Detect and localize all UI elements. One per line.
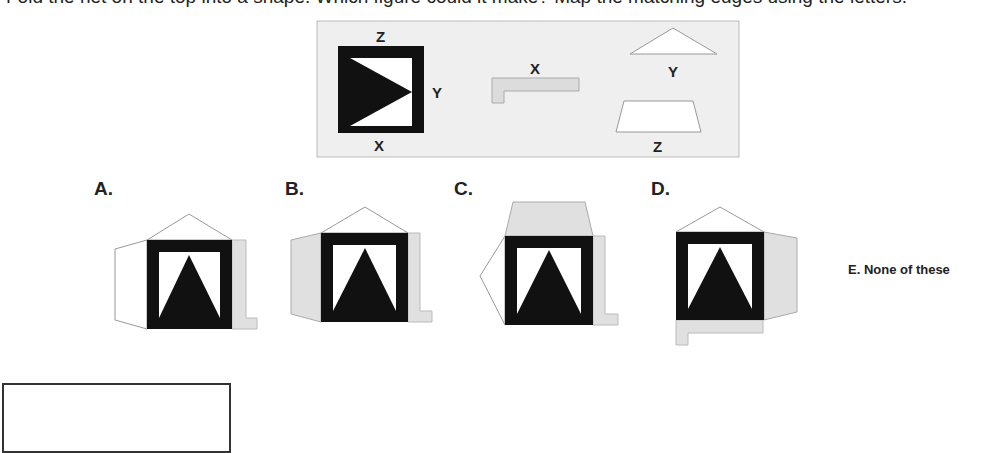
reference-square: [338, 46, 424, 133]
square-label-bottom: X: [374, 137, 384, 154]
option-e-label[interactable]: E. None of these: [848, 262, 950, 277]
option-c-label[interactable]: C.: [454, 178, 473, 200]
option-a-label[interactable]: A.: [94, 178, 113, 200]
option-d-label[interactable]: D.: [651, 178, 670, 200]
piece-y-label: Y: [668, 63, 678, 80]
reference-net-panel: Z Y X X Y Z: [317, 21, 739, 157]
answer-box[interactable]: [2, 383, 231, 453]
square-label-right: Y: [432, 84, 442, 101]
square-label-top: Z: [376, 28, 385, 45]
option-d-figure[interactable]: [676, 207, 797, 345]
option-c-figure[interactable]: [480, 202, 618, 325]
option-b-figure[interactable]: [291, 207, 432, 322]
option-b-label[interactable]: B.: [285, 178, 304, 200]
piece-z-label: Z: [653, 138, 662, 155]
option-a-figure[interactable]: [115, 214, 257, 329]
piece-z: [616, 101, 701, 132]
piece-x-label: X: [530, 60, 540, 77]
